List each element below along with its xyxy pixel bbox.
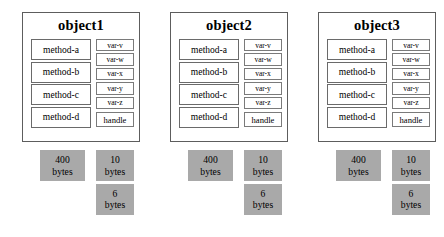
- variable-box: var-v: [392, 39, 430, 51]
- methods-column: method-a method-b method-c method-d: [31, 39, 91, 128]
- object-panel: object1 method-a method-b method-c metho…: [22, 12, 140, 142]
- memory-unit: bytes: [401, 199, 421, 211]
- variables-memory-box: 10 bytes: [244, 150, 282, 181]
- object-panel-body: method-a method-b method-c method-d var-…: [319, 39, 435, 141]
- object-panel: object3 method-a method-b method-c metho…: [318, 12, 436, 142]
- memory-number: 10: [258, 154, 268, 166]
- handle-box: handle: [244, 112, 282, 127]
- variable-box: var-y: [392, 82, 430, 94]
- variable-box: var-y: [96, 82, 134, 94]
- memory-number: 6: [409, 188, 414, 200]
- method-box: method-d: [31, 107, 91, 128]
- memory-area: 400 bytes 10 bytes 6 bytes: [296, 148, 444, 237]
- variables-memory-box: 10 bytes: [392, 150, 430, 181]
- memory-number: 10: [110, 154, 120, 166]
- object-panel-body: method-a method-b method-c method-d var-…: [171, 39, 287, 141]
- memory-unit: bytes: [105, 199, 125, 211]
- memory-unit: bytes: [348, 166, 368, 178]
- variables-column: var-v var-w var-x var-y var-z handle: [244, 39, 282, 127]
- method-box: method-c: [179, 84, 239, 105]
- method-box: method-a: [327, 39, 387, 60]
- methods-memory-box: 400 bytes: [188, 150, 233, 181]
- object-group: object2 method-a method-b method-c metho…: [148, 0, 296, 237]
- variable-box: var-w: [96, 53, 134, 65]
- handle-memory-box: 6 bytes: [244, 184, 282, 215]
- method-box: method-b: [179, 62, 239, 83]
- methods-column: method-a method-b method-c method-d: [179, 39, 239, 128]
- methods-memory-box: 400 bytes: [336, 150, 381, 181]
- method-box: method-b: [327, 62, 387, 83]
- object-group: object1 method-a method-b method-c metho…: [0, 0, 148, 237]
- memory-unit: bytes: [253, 166, 273, 178]
- memory-number: 6: [113, 188, 118, 200]
- method-box: method-a: [179, 39, 239, 60]
- memory-number: 10: [406, 154, 416, 166]
- variable-box: var-v: [244, 39, 282, 51]
- method-box: method-b: [31, 62, 91, 83]
- memory-area: 400 bytes 10 bytes 6 bytes: [0, 148, 148, 237]
- method-box: method-a: [31, 39, 91, 60]
- memory-right-stack: 10 bytes 6 bytes: [244, 150, 282, 215]
- methods-memory-box: 400 bytes: [40, 150, 85, 181]
- handle-box: handle: [96, 112, 134, 127]
- memory-area: 400 bytes 10 bytes 6 bytes: [148, 148, 296, 237]
- object-title: object3: [319, 17, 435, 33]
- variable-box: var-z: [392, 97, 430, 109]
- object-title: object2: [171, 17, 287, 33]
- variables-column: var-v var-w var-x var-y var-z handle: [392, 39, 430, 127]
- memory-unit: bytes: [253, 199, 273, 211]
- variable-box: var-w: [392, 53, 430, 65]
- method-box: method-c: [31, 84, 91, 105]
- handle-memory-box: 6 bytes: [96, 184, 134, 215]
- variable-box: var-w: [244, 53, 282, 65]
- methods-column: method-a method-b method-c method-d: [327, 39, 387, 128]
- memory-number: 400: [351, 154, 365, 166]
- memory-number: 400: [203, 154, 217, 166]
- object-group: object3 method-a method-b method-c metho…: [296, 0, 444, 237]
- memory-number: 400: [55, 154, 69, 166]
- memory-right-stack: 10 bytes 6 bytes: [96, 150, 134, 215]
- object-title: object1: [23, 17, 139, 33]
- variable-box: var-x: [392, 68, 430, 80]
- object-panel-body: method-a method-b method-c method-d var-…: [23, 39, 139, 141]
- variable-box: var-z: [244, 97, 282, 109]
- variables-column: var-v var-w var-x var-y var-z handle: [96, 39, 134, 127]
- variable-box: var-x: [96, 68, 134, 80]
- memory-unit: bytes: [105, 166, 125, 178]
- variable-box: var-x: [244, 68, 282, 80]
- variable-box: var-z: [96, 97, 134, 109]
- variables-memory-box: 10 bytes: [96, 150, 134, 181]
- memory-unit: bytes: [200, 166, 220, 178]
- memory-right-stack: 10 bytes 6 bytes: [392, 150, 430, 215]
- handle-memory-box: 6 bytes: [392, 184, 430, 215]
- variable-box: var-y: [244, 82, 282, 94]
- object-memory-diagram: object1 method-a method-b method-c metho…: [0, 0, 444, 237]
- memory-unit: bytes: [52, 166, 72, 178]
- memory-unit: bytes: [401, 166, 421, 178]
- memory-number: 6: [261, 188, 266, 200]
- method-box: method-c: [327, 84, 387, 105]
- object-panel: object2 method-a method-b method-c metho…: [170, 12, 288, 142]
- method-box: method-d: [327, 107, 387, 128]
- handle-box: handle: [392, 112, 430, 127]
- variable-box: var-v: [96, 39, 134, 51]
- method-box: method-d: [179, 107, 239, 128]
